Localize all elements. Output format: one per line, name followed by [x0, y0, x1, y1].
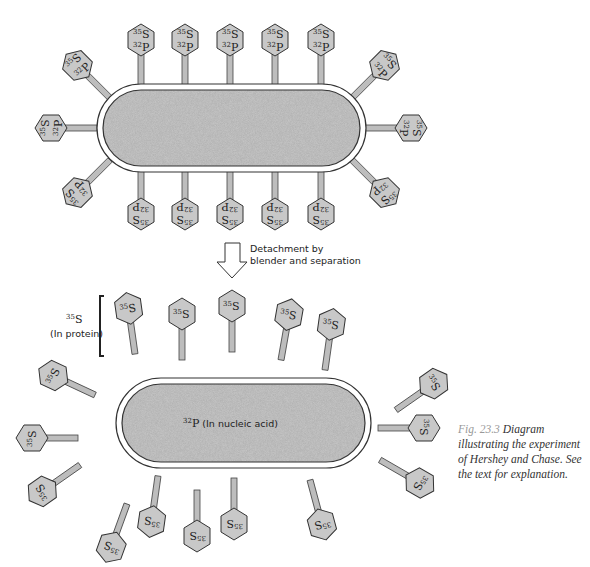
phage-icon — [262, 24, 288, 86]
phage-icon — [35, 115, 97, 141]
phage-icon — [172, 168, 198, 230]
arrow-label-line2: blender and separation — [250, 255, 361, 266]
phage-icon — [172, 24, 198, 86]
figure-number: Fig. 23.3 — [458, 423, 500, 435]
down-arrow-icon — [217, 243, 247, 278]
separated-panel: 35S (In protein) 32P (In nucleic acid) — [16, 290, 454, 567]
ghost-phage-icon — [33, 357, 100, 407]
ghost-phage-icon — [221, 478, 247, 540]
phage-icon — [365, 115, 427, 141]
ghost-phage-icon — [268, 297, 304, 363]
ghost-phage-icon — [219, 290, 245, 352]
ghost-phage-icon — [113, 291, 147, 356]
ghost-phage-icon — [136, 474, 170, 539]
protein-label: 35S — [66, 313, 82, 326]
ghost-phage-icon — [16, 425, 78, 451]
bracket — [100, 296, 104, 356]
process-arrow: Detachment by blender and separation — [217, 243, 361, 278]
ghost-phage-icon — [297, 477, 338, 544]
phage-icon — [308, 168, 334, 230]
figure-caption: Fig. 23.3 Diagram illustrating the exper… — [458, 422, 588, 482]
arrow-label-line1: Detachment by — [250, 243, 324, 254]
ghost-phage-icon — [184, 490, 210, 552]
protein-sublabel: (In protein) — [50, 328, 103, 339]
phage-icon — [217, 24, 243, 86]
phage-bottom-row — [128, 168, 334, 230]
ghost-phage-icon — [378, 415, 440, 441]
nucleic-acid-label: 32P (In nucleic acid) — [183, 417, 278, 430]
ghost-phage-icon — [312, 307, 346, 372]
phage-top-row — [128, 24, 334, 86]
phage-icon — [57, 151, 119, 213]
ghost-phage-icon — [22, 454, 88, 511]
infected-bacterium-panel — [35, 24, 427, 230]
bacterium-body — [103, 90, 360, 166]
phage-icon — [217, 168, 243, 230]
phage-icon — [128, 168, 154, 230]
ghost-phage-icon — [374, 449, 441, 503]
phage-icon — [308, 24, 334, 86]
ghost-phage-icon — [389, 364, 455, 421]
ghost-phage-icon — [94, 500, 140, 567]
ghost-phage-icon — [169, 298, 195, 360]
phage-icon — [262, 168, 288, 230]
phage-icon — [128, 24, 154, 86]
